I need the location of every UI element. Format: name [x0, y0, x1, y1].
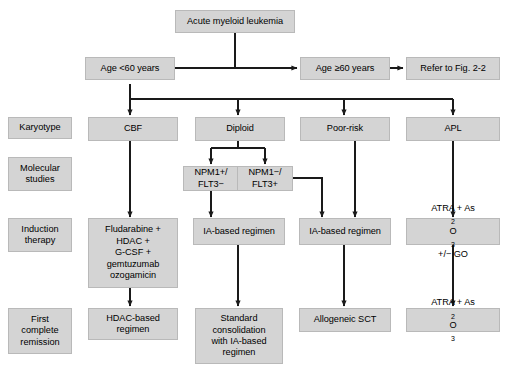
node-label-line2: +/− GO — [438, 249, 468, 260]
node-remission-atra-arsenic[interactable]: ATRA + As2O3 — [406, 308, 500, 332]
node-label: Poor-risk — [327, 123, 363, 134]
node-label: IA-based regimen — [203, 226, 275, 237]
node-npm1-negative-flt3-positive[interactable]: NPM1−/ FLT3+ — [237, 166, 293, 191]
node-karyotype-apl[interactable]: APL — [406, 117, 500, 141]
node-label-line1: HDAC-based — [106, 313, 160, 324]
node-npm1-positive-flt3-negative[interactable]: NPM1+/ FLT3− — [183, 166, 239, 191]
node-label-line1: NPM1−/ — [248, 167, 281, 178]
subscript-2: 2 — [451, 313, 455, 320]
node-label: IA-based regimen — [309, 226, 381, 237]
row-label-text-line1: Induction — [21, 224, 58, 235]
node-label: Acute myeloid leukemia — [187, 16, 283, 27]
node-label-line2: HDAC + — [116, 236, 150, 247]
node-age-60-or-over[interactable]: Age ≥60 years — [300, 57, 390, 80]
flowchart-canvas: Acute myeloid leukemia Age <60 years Age… — [0, 0, 506, 378]
node-label: APL — [444, 123, 461, 134]
node-remission-allogeneic-sct[interactable]: Allogeneic SCT — [299, 308, 391, 332]
node-induction-apl-atra-arsenic[interactable]: ATRA + As2O3 +/− GO — [406, 218, 500, 245]
node-label-line2: FLT3+ — [252, 179, 278, 190]
node-label-line1: Standard — [221, 313, 258, 324]
node-label-line3: with IA-based — [211, 336, 266, 347]
row-label-induction-therapy: Induction therapy — [8, 218, 72, 252]
row-label-text-line1: First — [31, 314, 49, 325]
node-karyotype-cbf[interactable]: CBF — [88, 117, 178, 141]
row-label-text-line1: Molecular — [20, 163, 60, 174]
node-remission-hdac-based-regimen[interactable]: HDAC-based regimen — [88, 308, 178, 340]
node-label-line1: NPM1+/ — [194, 167, 227, 178]
node-karyotype-diploid[interactable]: Diploid — [195, 117, 285, 141]
subscript-3: 3 — [451, 335, 455, 342]
node-label: Age ≥60 years — [316, 63, 375, 74]
node-induction-poor-risk-ia-regimen[interactable]: IA-based regimen — [299, 218, 391, 245]
node-label-line1: ATRA + As2O3 — [431, 203, 475, 249]
oxygen-text: O — [431, 320, 475, 331]
node-remission-standard-consolidation[interactable]: Standard consolidation with IA-based reg… — [195, 308, 283, 364]
node-refer-to-fig-2-2[interactable]: Refer to Fig. 2-2 — [406, 57, 500, 80]
node-label-line5: ozogamicin — [110, 270, 156, 281]
node-label-line4: regimen — [223, 347, 256, 358]
node-label-line1: Fludarabine + — [105, 224, 161, 235]
node-label: Diploid — [226, 123, 254, 134]
wire-npm1-neg-to-ia-regimen — [292, 178, 322, 217]
node-label: ATRA + As2O3 — [431, 297, 475, 343]
row-label-text-line2: complete — [21, 325, 58, 336]
row-label-text-line3: remission — [20, 337, 59, 348]
row-label-text-line2: therapy — [25, 235, 56, 246]
atra-text: ATRA + As — [431, 297, 475, 308]
node-label: Refer to Fig. 2-2 — [420, 63, 486, 74]
node-induction-diploid-ia-regimen[interactable]: IA-based regimen — [193, 218, 285, 245]
node-label-line4: gemtuzumab — [107, 259, 160, 270]
node-label: Allogeneic SCT — [314, 314, 377, 325]
node-induction-cbf-regimen[interactable]: Fludarabine + HDAC + G-CSF + gemtuzumab … — [88, 218, 178, 288]
row-label-text: Karyotype — [19, 122, 60, 133]
row-label-molecular-studies: Molecular studies — [8, 157, 72, 191]
node-acute-myeloid-leukemia[interactable]: Acute myeloid leukemia — [175, 10, 295, 33]
row-label-first-complete-remission: First complete remission — [8, 308, 72, 354]
row-label-karyotype: Karyotype — [8, 117, 72, 139]
node-label-line3: G-CSF + — [115, 247, 151, 258]
oxygen-text: O — [431, 226, 475, 237]
row-label-text-line2: studies — [25, 174, 54, 185]
node-label: CBF — [124, 123, 142, 134]
node-label-line2: regimen — [117, 324, 150, 335]
atra-text: ATRA + As — [431, 203, 475, 214]
node-label-line2: FLT3− — [198, 179, 224, 190]
node-karyotype-poor-risk[interactable]: Poor-risk — [300, 117, 390, 141]
node-age-under-60[interactable]: Age <60 years — [85, 57, 175, 80]
node-label: Age <60 years — [101, 63, 160, 74]
node-label-line2: consolidation — [213, 325, 266, 336]
subscript-2: 2 — [451, 218, 455, 225]
subscript-3: 3 — [451, 241, 455, 248]
